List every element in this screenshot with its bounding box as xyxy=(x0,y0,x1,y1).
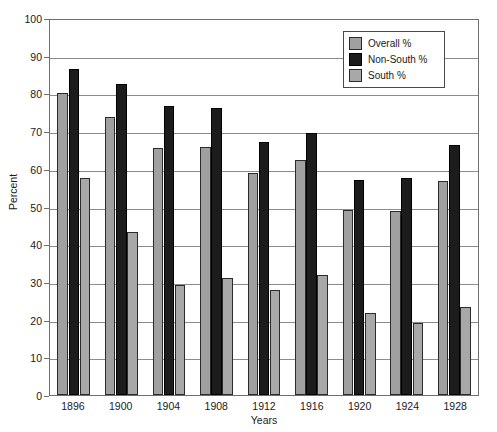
bar-chart: 1009080706050403020100 Percent 189619001… xyxy=(0,0,497,432)
bar xyxy=(80,178,91,395)
bar xyxy=(449,145,460,395)
bar xyxy=(354,180,365,395)
bar-group xyxy=(193,20,241,395)
y-axis-tick-label: 10 xyxy=(30,353,42,363)
x-axis-tick-label: 1900 xyxy=(97,399,145,415)
bar xyxy=(270,290,281,395)
x-axis-tick-label: 1908 xyxy=(192,399,240,415)
bar xyxy=(211,108,222,395)
bar xyxy=(460,307,471,395)
y-axis-tick-label: 100 xyxy=(24,14,42,24)
bar xyxy=(105,117,116,395)
bar xyxy=(306,133,317,395)
bar-group xyxy=(145,20,193,395)
bar xyxy=(153,148,164,395)
bar-group xyxy=(98,20,146,395)
x-axis-tick-label: 1904 xyxy=(145,399,193,415)
legend-item: Non-South % xyxy=(349,52,439,66)
bar xyxy=(401,178,412,395)
bar xyxy=(438,181,449,396)
bar xyxy=(259,142,270,395)
bar xyxy=(413,323,424,395)
x-axis-tick-label: 1928 xyxy=(431,399,479,415)
bar xyxy=(248,173,259,395)
bar xyxy=(390,211,401,395)
y-axis-tick-label: 70 xyxy=(30,127,42,137)
y-axis-tick-label: 90 xyxy=(30,52,42,62)
bar-group xyxy=(288,20,336,395)
y-axis-tick-label: 0 xyxy=(36,391,42,401)
y-axis-title: Percent xyxy=(7,157,19,227)
legend-item: South % xyxy=(349,68,439,82)
x-axis-tick-label: 1920 xyxy=(336,399,384,415)
y-axis-tick-label: 50 xyxy=(30,203,42,213)
legend-item-label: Non-South % xyxy=(368,54,427,65)
bar xyxy=(222,278,233,395)
bar-group xyxy=(50,20,98,395)
x-axis-tick-label: 1896 xyxy=(49,399,97,415)
x-axis-tick-label: 1912 xyxy=(240,399,288,415)
bar xyxy=(57,93,68,395)
bar xyxy=(164,106,175,395)
x-axis-title: Years xyxy=(49,414,479,426)
bar xyxy=(69,69,80,395)
legend-swatch-icon xyxy=(349,37,362,50)
x-axis: 189619001904190819121916192019241928 xyxy=(49,399,479,415)
y-axis-tick-label: 40 xyxy=(30,240,42,250)
legend-item-label: Overall % xyxy=(368,38,411,49)
bar-group xyxy=(240,20,288,395)
bar xyxy=(295,160,306,395)
legend-item: Overall % xyxy=(349,36,439,50)
legend-swatch-icon xyxy=(349,69,362,82)
y-axis-tick-mark xyxy=(44,396,49,397)
legend-swatch-icon xyxy=(349,53,362,66)
bar xyxy=(343,210,354,395)
legend-item-label: South % xyxy=(368,70,406,81)
y-axis-tick-label: 30 xyxy=(30,278,42,288)
bar xyxy=(127,232,138,395)
bar xyxy=(116,84,127,395)
y-axis-tick-label: 60 xyxy=(30,165,42,175)
bar xyxy=(175,285,186,395)
bar xyxy=(365,313,376,395)
bar xyxy=(200,147,211,395)
x-axis-tick-label: 1916 xyxy=(288,399,336,415)
chart-legend: Overall %Non-South %South % xyxy=(343,31,445,88)
bar xyxy=(317,275,328,395)
y-axis-tick-label: 20 xyxy=(30,316,42,326)
y-axis-tick-label: 80 xyxy=(30,89,42,99)
x-axis-tick-label: 1924 xyxy=(383,399,431,415)
